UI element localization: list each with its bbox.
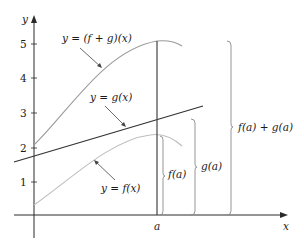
function-sum-diagram: x y 1 2 3 4 5 a y = (f + g)(x) y = g(x) … (0, 0, 304, 250)
f-curve-label: y = f(x) (100, 182, 140, 194)
g-line (14, 106, 203, 162)
y-tick-1: 1 (20, 176, 27, 188)
g-line-label: y = g(x) (89, 91, 132, 103)
g-line-pointer (105, 106, 125, 126)
y-tick-3: 3 (20, 107, 27, 119)
y-tick-4: 4 (20, 72, 27, 84)
y-axis-label: y (21, 13, 29, 25)
g-a-label: g(a) (201, 160, 222, 172)
x-axis: x (14, 212, 289, 232)
x-marker-a: a (154, 220, 160, 232)
y-tick-2: 2 (20, 142, 27, 154)
f-curve-pointer (95, 161, 115, 180)
y-tick-5: 5 (20, 38, 27, 50)
sum-a-label: f(a) + g(a) (237, 121, 293, 133)
x-axis-arrow-icon (280, 212, 288, 218)
sum-curve-pointer (80, 48, 101, 67)
bracket-f-a: f(a) (160, 136, 186, 215)
x-axis-label: x (283, 220, 289, 232)
f-a-label: f(a) (167, 168, 186, 180)
f-curve (34, 134, 182, 205)
bracket-g-a: g(a) (191, 119, 222, 215)
bracket-sum-a: f(a) + g(a) (227, 41, 293, 215)
sum-curve-label: y = (f + g)(x) (61, 32, 132, 44)
y-axis-arrow-icon (31, 15, 37, 23)
